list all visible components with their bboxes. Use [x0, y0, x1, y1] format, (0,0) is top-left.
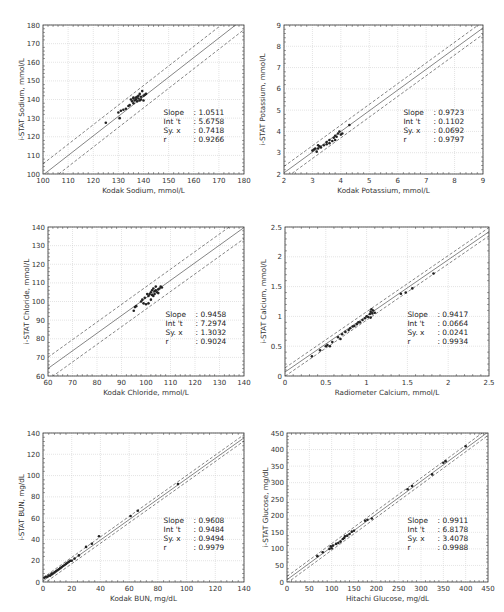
x-tick-label: 2 — [282, 177, 286, 185]
data-point — [153, 290, 156, 293]
y-axis-label: i-STAT BUN, mg/dL — [17, 474, 26, 541]
data-point — [141, 90, 144, 93]
x-tick-label: 160 — [187, 177, 200, 185]
data-point — [328, 139, 331, 142]
y-tick-label: 9 — [277, 22, 281, 30]
regression-lines — [284, 22, 483, 180]
x-tick-label: 4 — [339, 177, 344, 185]
data-point — [367, 316, 370, 319]
x-axis-label: Kodak Chloride, mmol/L — [103, 388, 188, 397]
regression-lines — [285, 228, 489, 377]
y-tick-label: 3 — [277, 149, 281, 157]
regression-stats: Slope: 0.9911Int 't: 6.8178Sy. x: 3.4078… — [408, 516, 469, 552]
data-point — [319, 349, 322, 352]
plot-frame — [287, 433, 488, 582]
x-tick-label: 120 — [209, 585, 222, 593]
data-point — [359, 321, 362, 324]
data-point — [369, 313, 372, 316]
y-tick-label: 2 — [278, 253, 282, 261]
y-tick-label: 140 — [27, 430, 40, 438]
y-tick-label: 100 — [32, 298, 45, 306]
data-point — [361, 319, 364, 322]
data-point — [153, 293, 156, 296]
x-axis-label: Kodak Sodium, mmol/L — [102, 186, 185, 195]
x-axis-label: Kodak BUN, mg/dL — [110, 594, 177, 603]
x-tick-label: 400 — [459, 585, 472, 593]
data-point — [372, 309, 375, 312]
x-tick-label: 200 — [370, 585, 383, 593]
regression-line — [287, 432, 488, 580]
y-tick-label: 300 — [271, 479, 284, 487]
x-tick-label: 350 — [437, 585, 450, 593]
minor-ticks — [284, 25, 483, 174]
x-tick-label: 70 — [68, 379, 77, 387]
data-point — [353, 325, 356, 328]
regression-lines — [287, 429, 488, 583]
y-tick-label: 120 — [32, 261, 45, 269]
data-point — [350, 530, 353, 533]
plot-frame — [284, 25, 483, 174]
data-point — [150, 298, 153, 301]
x-tick-label: 120 — [188, 379, 201, 387]
data-point — [346, 534, 349, 537]
data-point — [334, 139, 337, 142]
x-tick-label: 9 — [481, 177, 485, 185]
data-point — [373, 312, 376, 315]
chart-glucose: 0501001502002503003504004500501001502002… — [252, 408, 504, 612]
data-point — [328, 548, 331, 551]
x-tick-label: 130 — [112, 177, 125, 185]
data-point — [337, 336, 340, 339]
x-tick-label: 6 — [395, 177, 400, 185]
data-point — [332, 544, 335, 547]
regression-stats: Slope: 0.9723Int 't: 0.1102Sy. x: 0.0692… — [403, 108, 464, 144]
data-point — [85, 546, 88, 549]
x-tick-label: 80 — [153, 585, 162, 593]
upper-bound-line — [284, 22, 483, 167]
data-point — [136, 509, 139, 512]
data-point — [145, 93, 148, 96]
grid — [287, 433, 488, 582]
stat-intercept: Int 't: 0.0664 — [407, 319, 468, 328]
data-point — [369, 316, 372, 319]
stat-syx: Sy. x: 1.3032 — [166, 328, 227, 337]
y-tick-label: 2.5 — [271, 224, 282, 232]
y-axis-label: i-STAT Sodium, mmol/L — [17, 58, 26, 141]
data-point — [317, 144, 320, 147]
data-point — [406, 488, 409, 491]
stat-r: r: 0.9988 — [408, 543, 469, 552]
y-tick-label: 110 — [27, 152, 40, 160]
x-tick-label: 130 — [213, 379, 226, 387]
stat-syx: Sy. x: 0.0241 — [407, 328, 468, 337]
regression-line — [284, 28, 483, 173]
x-tick-label: 3 — [310, 177, 314, 185]
data-point — [151, 294, 154, 297]
x-tick-label: 0 — [41, 585, 45, 593]
plot-area: 0501001502002503003504004500501001502002… — [252, 408, 504, 612]
chart-potassium: 2345678923456789Kodak Potassium, mmol/Li… — [252, 0, 504, 204]
data-point — [316, 555, 319, 558]
data-point — [157, 292, 160, 295]
x-tick-label: 100 — [325, 585, 338, 593]
plot-area: 2345678923456789Kodak Potassium, mmol/Li… — [252, 0, 504, 204]
x-tick-label: 150 — [162, 177, 175, 185]
y-tick-label: 180 — [27, 22, 40, 30]
grid — [285, 227, 489, 376]
x-tick-label: 100 — [139, 379, 152, 387]
data-point — [344, 535, 347, 538]
y-axis-label: i-STAT Glucose, mg/dL — [261, 468, 270, 548]
y-tick-label: 100 — [27, 171, 40, 179]
data-point — [329, 345, 332, 348]
data-point — [141, 298, 144, 301]
y-tick-label: 60 — [31, 515, 40, 523]
data-point — [177, 483, 180, 486]
x-tick-label: 40 — [96, 585, 105, 593]
tick-labels: 1001101201301401501601701801001101201301… — [27, 22, 251, 186]
stat-intercept: Int 't: 6.8178 — [408, 525, 469, 534]
data-point — [331, 341, 334, 344]
chart-calcium: 00.511.522.500.511.522.5Radiometer Calci… — [252, 204, 504, 408]
regression-stats: Slope: 0.9458Int 't: 7.2974Sy. x: 1.3032… — [166, 310, 227, 346]
lower-bound-line — [284, 34, 483, 179]
y-tick-label: 0 — [36, 579, 40, 587]
data-point — [125, 108, 128, 111]
regression-line — [43, 438, 244, 581]
